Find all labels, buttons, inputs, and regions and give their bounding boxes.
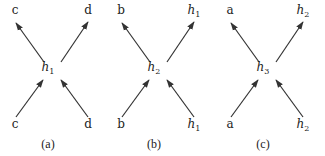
arrow-center-to-top-right [61,22,88,62]
node-center-base: h [148,60,156,74]
arrow-center-to-top-left [16,23,44,62]
node-bottom-left-base: c [12,117,19,131]
node-bottom-left: c [12,117,19,131]
hidden-node-diagram: cdh1cd(a)bh1h2bh1(b)ah2h3ah2(c) [0,0,325,156]
node-center: h2 [148,60,161,76]
node-center-subscript: 1 [49,67,54,76]
node-top-left-base: b [117,3,125,17]
panel-caption: (c) [256,137,269,151]
arrow-bottom-left-to-center [16,80,43,117]
arrow-bottom-right-to-center [276,80,303,117]
panel-1: cdh1cd(a) [12,3,93,151]
node-top-right: h2 [297,3,310,19]
arrow-center-to-top-left [231,23,259,62]
arrow-bottom-left-to-center [231,80,258,117]
arrow-bottom-right-to-center [61,80,88,117]
node-top-left-base: a [226,3,233,17]
node-bottom-right-base: d [84,117,92,131]
node-center: h1 [42,60,55,76]
node-center: h3 [257,60,270,76]
node-center-base: h [42,60,50,74]
panel-caption: (a) [41,137,54,151]
node-top-left: a [226,3,233,17]
node-center-subscript: 3 [264,67,269,76]
panel-caption: (b) [147,137,161,151]
panel-3: ah2h3ah2(c) [226,3,309,151]
node-top-left: b [117,3,125,17]
node-bottom-right: h1 [188,117,201,133]
node-bottom-right-base: h [188,117,196,131]
node-center-base: h [257,60,265,74]
node-top-right-subscript: 1 [195,10,200,19]
node-top-right-base: h [188,3,196,17]
node-top-left: c [12,3,19,17]
arrow-bottom-left-to-center [122,80,149,117]
node-bottom-left: a [226,117,233,131]
node-top-right: h1 [188,3,201,19]
node-bottom-left-base: a [226,117,233,131]
arrow-bottom-right-to-center [167,80,194,117]
node-bottom-right-subscript: 1 [195,124,200,133]
arrow-center-to-top-left [122,23,150,62]
arrow-center-to-top-right [276,22,303,62]
node-bottom-right: h2 [297,117,310,133]
node-top-right-base: d [84,3,92,17]
arrow-center-to-top-right [167,22,194,62]
node-bottom-right-base: h [297,117,305,131]
node-bottom-left: b [117,117,125,131]
node-top-right-subscript: 2 [304,10,309,19]
node-top-right: d [84,3,92,17]
panel-2: bh1h2bh1(b) [117,3,200,151]
node-bottom-right: d [84,117,92,131]
node-top-left-base: c [12,3,19,17]
node-bottom-right-subscript: 2 [304,124,309,133]
node-top-right-base: h [297,3,305,17]
node-bottom-left-base: b [117,117,125,131]
node-center-subscript: 2 [155,67,160,76]
